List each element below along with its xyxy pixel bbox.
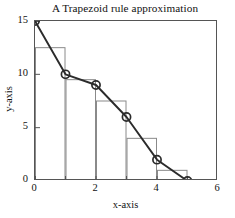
x-tick-label-6: 6 <box>208 182 226 193</box>
trapezoid-bars <box>36 48 188 180</box>
data-point-marker <box>183 177 191 180</box>
y-tick-label-15: 15 <box>4 14 28 25</box>
trapezoid-bar <box>127 138 157 180</box>
data-point-marker <box>153 156 161 164</box>
data-point-marker <box>122 113 130 121</box>
plot-area <box>34 20 217 180</box>
data-line <box>35 21 188 180</box>
x-tick-label-4: 4 <box>147 182 165 193</box>
data-point-marker <box>61 70 69 78</box>
x-tick-label-2: 2 <box>86 182 104 193</box>
x-tick-label-0: 0 <box>25 182 43 193</box>
data-point-marker <box>92 81 100 89</box>
y-axis-label: y-axis <box>3 69 15 129</box>
chart-title: A Trapezoid rule approximation <box>30 1 220 15</box>
data-point-marker <box>35 21 39 25</box>
curve-polyline <box>35 21 188 180</box>
trapezoid-bar <box>66 80 96 180</box>
x-axis-label: x-axis <box>34 199 217 211</box>
plot-svg <box>35 21 217 180</box>
chart-figure: A Trapezoid rule approximation 15 10 5 0… <box>0 0 235 218</box>
